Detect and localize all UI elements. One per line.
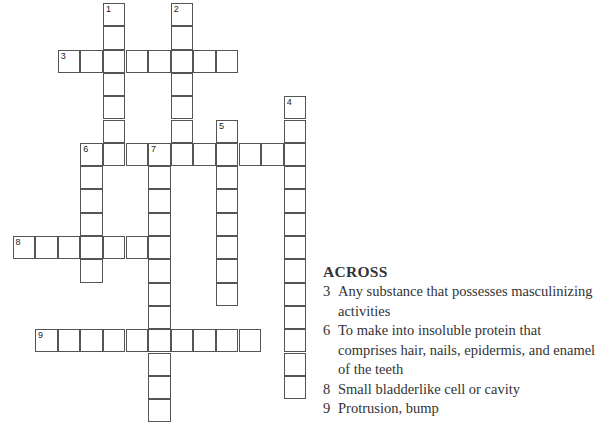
clue-number: 8 xyxy=(323,380,336,400)
crossword-cell[interactable] xyxy=(148,353,171,376)
crossword-cell[interactable] xyxy=(284,329,307,352)
crossword-cell[interactable] xyxy=(148,259,171,282)
crossword-cell[interactable] xyxy=(103,96,126,119)
crossword-cell[interactable] xyxy=(284,353,307,376)
crossword-cell[interactable] xyxy=(103,120,126,143)
clue-number: 9 xyxy=(323,399,336,419)
crossword-cell[interactable] xyxy=(80,166,103,189)
crossword-cell[interactable] xyxy=(284,189,307,212)
crossword-cell[interactable] xyxy=(216,143,239,166)
crossword-cell[interactable] xyxy=(103,50,126,73)
crossword-cell[interactable] xyxy=(284,306,307,329)
crossword-cell[interactable] xyxy=(284,376,307,399)
crossword-cell[interactable] xyxy=(171,73,194,96)
cell-number: 3 xyxy=(61,51,66,61)
crossword-cell[interactable] xyxy=(216,213,239,236)
crossword-cell[interactable] xyxy=(126,143,149,166)
crossword-cell[interactable] xyxy=(171,26,194,49)
crossword-cell[interactable] xyxy=(171,143,194,166)
crossword-cell[interactable] xyxy=(216,259,239,282)
crossword-cell[interactable] xyxy=(239,143,262,166)
crossword-cell[interactable] xyxy=(261,143,284,166)
crossword-cell[interactable] xyxy=(103,143,126,166)
crossword-cell[interactable] xyxy=(80,259,103,282)
crossword-cell[interactable] xyxy=(216,283,239,306)
crossword-cell[interactable] xyxy=(284,283,307,306)
crossword-cell[interactable] xyxy=(193,329,216,352)
cell-number: 7 xyxy=(151,144,156,154)
across-clues-panel: ACROSS 3 Any substance that possesses ma… xyxy=(323,263,601,419)
crossword-cell[interactable] xyxy=(284,213,307,236)
crossword-cell[interactable] xyxy=(148,376,171,399)
crossword-cell[interactable] xyxy=(148,236,171,259)
crossword-cell[interactable] xyxy=(126,236,149,259)
crossword-cell[interactable] xyxy=(103,329,126,352)
crossword-cell[interactable] xyxy=(103,26,126,49)
crossword-cell[interactable]: 8 xyxy=(13,236,36,259)
crossword-cell[interactable] xyxy=(284,236,307,259)
crossword-cell[interactable] xyxy=(148,50,171,73)
crossword-cell[interactable] xyxy=(216,329,239,352)
crossword-cell[interactable] xyxy=(103,236,126,259)
cell-number: 6 xyxy=(83,144,88,154)
crossword-cell[interactable]: 4 xyxy=(284,96,307,119)
crossword-cell[interactable] xyxy=(148,399,171,422)
crossword-cell[interactable] xyxy=(216,236,239,259)
clue-text: Protrusion, bump xyxy=(336,399,601,419)
crossword-cell[interactable] xyxy=(58,329,81,352)
crossword-cell[interactable] xyxy=(193,50,216,73)
crossword-cell[interactable] xyxy=(58,236,81,259)
cell-number: 8 xyxy=(16,237,21,247)
cell-number: 9 xyxy=(38,330,43,340)
cell-number: 5 xyxy=(219,121,224,131)
crossword-cell[interactable]: 1 xyxy=(103,3,126,26)
crossword-cell[interactable] xyxy=(284,259,307,282)
clue-text: To make into insoluble protein that comp… xyxy=(336,321,601,380)
across-heading: ACROSS xyxy=(323,263,601,281)
crossword-cell[interactable] xyxy=(35,236,58,259)
crossword-cell[interactable] xyxy=(193,143,216,166)
cell-number: 1 xyxy=(106,4,111,14)
clue-number: 3 xyxy=(323,282,336,321)
crossword-cell[interactable] xyxy=(216,166,239,189)
clue-text: Small bladderlike cell or cavity xyxy=(336,380,601,400)
crossword-cell[interactable] xyxy=(239,329,262,352)
crossword-cell[interactable] xyxy=(148,329,171,352)
crossword-cell[interactable] xyxy=(80,329,103,352)
crossword-cell[interactable] xyxy=(284,143,307,166)
crossword-cell[interactable] xyxy=(103,73,126,96)
clue-across-8: 8 Small bladderlike cell or cavity xyxy=(323,380,601,400)
crossword-cell[interactable]: 6 xyxy=(80,143,103,166)
clue-text: Any substance that possesses masculinizi… xyxy=(336,282,601,321)
crossword-cell[interactable] xyxy=(148,166,171,189)
crossword-cell[interactable] xyxy=(126,329,149,352)
cell-number: 2 xyxy=(174,4,179,14)
cell-number: 4 xyxy=(287,97,292,107)
clue-across-6: 6 To make into insoluble protein that co… xyxy=(323,321,601,380)
clue-number: 6 xyxy=(323,321,336,380)
crossword-cell[interactable] xyxy=(148,189,171,212)
crossword-cell[interactable] xyxy=(171,50,194,73)
crossword-cell[interactable] xyxy=(148,213,171,236)
crossword-cell[interactable]: 7 xyxy=(148,143,171,166)
crossword-cell[interactable] xyxy=(284,166,307,189)
crossword-cell[interactable]: 2 xyxy=(171,3,194,26)
crossword-cell[interactable] xyxy=(126,50,149,73)
crossword-cell[interactable]: 5 xyxy=(216,120,239,143)
crossword-cell[interactable] xyxy=(80,213,103,236)
crossword-cell[interactable] xyxy=(80,236,103,259)
clue-across-3: 3 Any substance that possesses masculini… xyxy=(323,282,601,321)
crossword-cell[interactable] xyxy=(148,306,171,329)
crossword-cell[interactable] xyxy=(148,283,171,306)
crossword-cell[interactable] xyxy=(171,96,194,119)
crossword-cell[interactable] xyxy=(216,50,239,73)
crossword-cell[interactable] xyxy=(80,189,103,212)
crossword-cell[interactable] xyxy=(171,120,194,143)
crossword-cell[interactable] xyxy=(216,189,239,212)
crossword-cell[interactable] xyxy=(171,329,194,352)
crossword-cell[interactable] xyxy=(284,120,307,143)
crossword-cell[interactable]: 3 xyxy=(58,50,81,73)
clue-across-9: 9 Protrusion, bump xyxy=(323,399,601,419)
crossword-cell[interactable]: 9 xyxy=(35,329,58,352)
crossword-cell[interactable] xyxy=(80,50,103,73)
